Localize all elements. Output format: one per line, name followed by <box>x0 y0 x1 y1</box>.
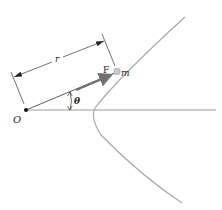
mass-label: m <box>121 68 130 78</box>
mass-particle <box>114 69 120 75</box>
dimension-line-right <box>63 41 104 57</box>
dimension-extension-right <box>102 34 115 66</box>
force-arrow <box>76 75 111 90</box>
origin-point <box>24 108 28 112</box>
origin-label: O <box>13 114 21 125</box>
angle-label: θ <box>74 96 80 106</box>
radius-label: r <box>55 54 60 64</box>
dimension-extension-left <box>11 72 24 104</box>
angle-arc-arrowhead <box>68 106 73 110</box>
force-label: F <box>103 65 109 75</box>
dimension-line-left <box>14 62 52 77</box>
hyperbola-diagram: O r F m θ <box>0 0 222 210</box>
